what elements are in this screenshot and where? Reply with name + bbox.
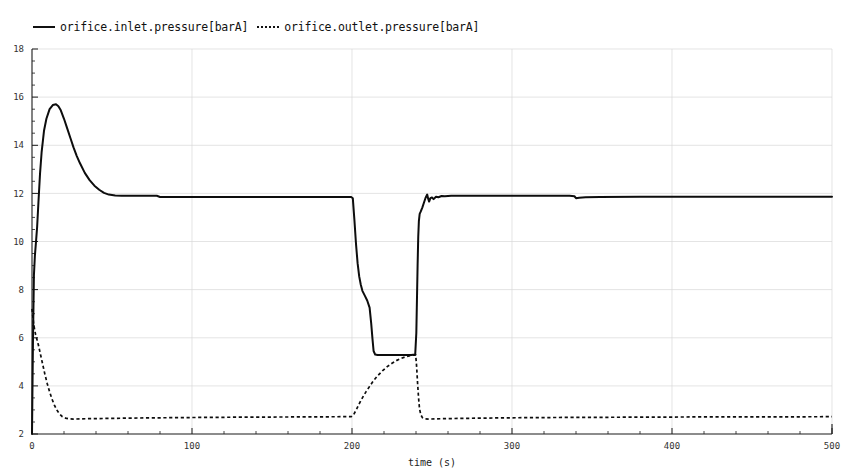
x-axis-title: time (s): [408, 457, 456, 468]
y-tick-label: 10: [13, 237, 24, 247]
x-tick-label: 500: [824, 441, 840, 451]
series-line-inlet: [32, 104, 832, 434]
y-tick-label: 6: [19, 333, 24, 343]
y-tick-label: 16: [13, 92, 24, 102]
chart-svg: 246810121416180100200300400500time (s): [0, 0, 852, 470]
y-tick-label: 12: [13, 189, 24, 199]
y-tick-label: 14: [13, 140, 24, 150]
y-tick-label: 8: [19, 285, 24, 295]
x-tick-label: 400: [664, 441, 680, 451]
x-tick-label: 100: [184, 441, 200, 451]
y-tick-label: 2: [19, 429, 24, 439]
x-tick-label: 300: [504, 441, 520, 451]
chart-plot-area: 246810121416180100200300400500time (s): [0, 0, 852, 470]
x-tick-label: 200: [344, 441, 360, 451]
grid-lines: [32, 49, 832, 434]
series-line-outlet: [32, 309, 832, 419]
chart-page: orifice.inlet.pressure[barA] orifice.out…: [0, 0, 852, 470]
x-tick-label: 0: [29, 441, 34, 451]
y-tick-label: 18: [13, 44, 24, 54]
axis-tick-labels: 246810121416180100200300400500time (s): [13, 44, 840, 468]
data-series: [32, 104, 832, 434]
y-tick-label: 4: [19, 381, 24, 391]
